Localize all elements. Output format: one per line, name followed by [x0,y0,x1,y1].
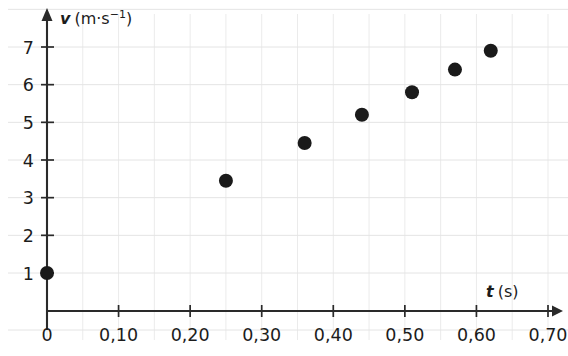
x-axis-tick-label: 0,30 [242,325,281,345]
data-point [355,108,369,122]
x-axis-tick-label: 0,50 [385,325,424,345]
y-axis-tick-label: 1 [23,264,34,284]
x-axis-arrow-icon [552,306,563,317]
y-axis-tick-label: 4 [23,151,34,171]
y-axis-title: v(m·s−1) [60,8,132,29]
x-axis-tick-label: 0 [41,325,52,345]
x-axis-tick-label: 0,20 [171,325,210,345]
data-point-series [40,44,498,280]
y-axis-tick-label: 5 [23,113,34,133]
y-axis-tick-label: 7 [23,38,34,58]
data-point [484,44,498,58]
y-axis-tick-labels: 1234567 [23,38,34,284]
y-axis-arrow-icon [42,8,53,21]
data-point [40,266,54,280]
plot-area: 00,100,200,300,400,500,600,70 1234567 t(… [0,0,568,356]
data-point [405,85,419,99]
x-axis-tick-label: 0,40 [314,325,353,345]
data-point [219,174,233,188]
data-point [448,63,462,77]
scatter-chart: 00,100,200,300,400,500,600,70 1234567 t(… [0,0,568,356]
y-axis-tick-label: 6 [23,75,34,95]
data-point [298,136,312,150]
horizontal-gridlines [8,9,568,330]
y-axis-tick-label: 2 [23,226,34,246]
vertical-gridlines [47,14,548,340]
y-axis-tick-label: 3 [23,188,34,208]
x-axis-tick-label: 0,60 [457,325,496,345]
x-axis-tick-labels: 00,100,200,300,400,500,600,70 [41,325,567,345]
x-axis-tick-label: 0,10 [99,325,138,345]
x-axis-tick-label: 0,70 [529,325,568,345]
x-axis-title: t(s) [486,282,518,301]
